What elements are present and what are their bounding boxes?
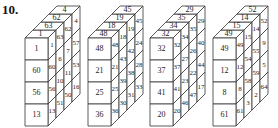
top-cell-number: 34: [170, 21, 178, 30]
side-cell-number: 53: [73, 61, 81, 69]
top-cell-number: 35: [178, 13, 186, 22]
side-cell-number: 7: [66, 47, 70, 55]
top-cell-number: 1: [39, 29, 43, 38]
side-cell-number: 14: [253, 25, 261, 33]
side-cell-number: 10: [57, 77, 65, 85]
top-cell-number: 15: [233, 21, 241, 30]
side-cell-number: 30: [120, 99, 128, 107]
top-cell-number: 18: [108, 21, 116, 30]
front-cell-number: 56: [33, 88, 41, 97]
side-cell-number: 23: [182, 77, 190, 85]
side-cell-number: 1: [50, 41, 54, 49]
front-cell-number: 61: [221, 110, 229, 119]
front-cell-number: 37: [158, 66, 166, 75]
side-cell-number: 41: [174, 85, 182, 93]
side-cell-number: 47: [190, 91, 198, 99]
side-cell-number: 46: [182, 99, 190, 107]
front-cell-number: 12: [221, 66, 229, 75]
side-cell-number: 12: [237, 63, 245, 71]
top-cell-number: 62: [53, 13, 61, 22]
side-cell-number: 52: [261, 17, 269, 25]
side-cell-number: 62: [65, 25, 73, 33]
side-cell-number: 51: [57, 99, 65, 107]
side-cell-number: 61: [237, 107, 245, 115]
side-cell-number: 58: [245, 77, 253, 85]
side-cell-number: 25: [112, 85, 120, 93]
side-cell-number: 31: [128, 91, 136, 99]
side-cell-number: 60: [49, 63, 57, 71]
side-cell-number: 19: [128, 25, 136, 33]
side-cell-number: 36: [112, 107, 120, 115]
front-cell-number: 32: [158, 44, 166, 53]
side-cell-number: 27: [182, 55, 190, 63]
front-cell-number: 36: [96, 110, 104, 119]
side-cell-number: 4: [74, 17, 78, 25]
side-cell-number: 24: [136, 39, 144, 47]
side-cell-number: 37: [174, 63, 182, 71]
front-cell-number: 41: [158, 88, 166, 97]
top-cell-number: 29: [186, 5, 194, 14]
side-cell-number: 42: [128, 47, 136, 55]
top-cell-number: 14: [241, 13, 249, 22]
side-cell-number: 8: [238, 85, 242, 93]
side-cell-number: 28: [136, 61, 144, 69]
top-cell-number: 45: [124, 5, 132, 14]
magic-cube-diagram: 1636241605613636105162711504575316160561…: [0, 0, 278, 128]
side-cell-number: 45: [136, 17, 144, 25]
side-cell-number: 49: [237, 41, 245, 49]
side-cell-number: 38: [128, 69, 136, 77]
side-cell-number: 59: [253, 69, 261, 77]
side-cell-number: 57: [73, 39, 81, 47]
side-cell-number: 55: [253, 47, 261, 55]
front-cell-number: 60: [33, 66, 41, 75]
side-cell-number: 11: [65, 69, 72, 77]
side-cell-number: 34: [182, 33, 190, 41]
front-cell-number: 21: [96, 66, 104, 75]
front-cell-number: 13: [33, 110, 41, 119]
side-cell-number: 26: [190, 47, 198, 55]
side-cell-number: 5: [262, 61, 266, 69]
front-cell-number: 49: [221, 44, 229, 53]
side-cell-number: 39: [120, 77, 128, 85]
side-cell-number: 32: [174, 41, 182, 49]
side-cell-number: 22: [190, 69, 198, 77]
side-cell-number: 43: [120, 55, 128, 63]
side-cell-number: 56: [49, 85, 57, 93]
top-cell-number: 32: [162, 29, 170, 38]
side-cell-number: 33: [136, 83, 144, 91]
side-cell-number: 3: [246, 99, 250, 107]
side-cell-number: 13: [49, 107, 57, 115]
top-cell-number: 63: [45, 21, 53, 30]
side-cell-number: 48: [112, 41, 120, 49]
side-cell-number: 18: [120, 33, 128, 41]
side-cell-number: 21: [112, 63, 120, 71]
front-cell-number: 20: [158, 110, 166, 119]
top-cell-number: 19: [116, 13, 124, 22]
front-cell-number: 1: [35, 44, 39, 53]
side-cell-number: 35: [190, 25, 198, 33]
side-cell-number: 20: [174, 107, 182, 115]
front-cell-number: 8: [223, 88, 227, 97]
top-cell-number: 4: [63, 5, 67, 14]
top-cell-number: 52: [249, 5, 257, 14]
side-cell-number: 15: [245, 33, 253, 41]
side-cell-number: 17: [198, 83, 206, 91]
side-cell-number: 40: [198, 39, 206, 47]
side-cell-number: 9: [262, 39, 266, 47]
side-cell-number: 16: [73, 83, 81, 91]
front-cell-number: 48: [96, 44, 104, 53]
side-cell-number: 54: [245, 55, 253, 63]
side-cell-number: 6: [58, 55, 62, 63]
front-cell-number: 25: [96, 88, 104, 97]
side-cell-number: 64: [261, 83, 269, 91]
side-cell-number: 2: [254, 91, 258, 99]
side-cell-number: 29: [198, 17, 206, 25]
side-cell-number: 63: [57, 33, 65, 41]
side-cell-number: 50: [65, 91, 73, 99]
top-cell-number: 48: [100, 29, 108, 38]
side-cell-number: 44: [198, 61, 206, 69]
top-cell-number: 49: [225, 29, 233, 38]
